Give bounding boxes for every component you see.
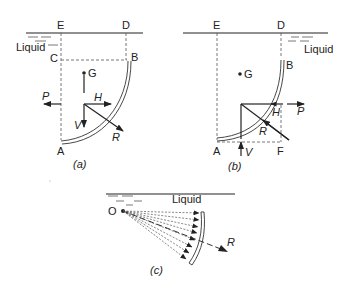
force-r-arrow — [84, 104, 123, 131]
pressure-rays — [123, 211, 199, 259]
force-p-label: P — [42, 90, 50, 102]
point-a-label: A — [57, 145, 65, 157]
point-f-label: F — [277, 145, 284, 157]
surface-wave-marks — [288, 37, 313, 41]
panel-c-caption: (c) — [150, 264, 163, 276]
force-r-label: R — [112, 131, 120, 143]
force-v-label: V — [245, 146, 254, 158]
resultant-r-line — [123, 211, 226, 251]
liquid-label: Liquid — [172, 193, 201, 205]
panel-a: Liquid E D C B G P H V R A (a) — [16, 19, 143, 170]
panel-b: Liquid E D B G H P R V A F (b) — [183, 19, 333, 172]
force-h-label: H — [272, 106, 280, 118]
point-c-label: C — [50, 52, 58, 64]
curved-surface-hydrostatic-force-figure: Liquid E D C B G P H V R A (a) — [0, 0, 357, 288]
point-b-label: B — [286, 59, 293, 71]
stray-mark — [49, 180, 50, 181]
panel-a-caption: (a) — [73, 158, 87, 170]
centroid-g-dot — [82, 71, 86, 75]
force-h-label: H — [94, 91, 102, 103]
center-o-label: O — [108, 205, 117, 217]
point-a-label: A — [213, 145, 221, 157]
panel-c: Liquid O R (c) — [106, 193, 235, 276]
liquid-label: Liquid — [304, 43, 333, 55]
surface-wave-marks — [108, 196, 142, 205]
liquid-label: Liquid — [16, 41, 45, 53]
force-p-label: P — [297, 105, 305, 117]
point-b-label: B — [131, 51, 138, 63]
point-e-label: E — [57, 19, 64, 31]
force-v-label: V — [74, 119, 83, 131]
panel-b-caption: (b) — [228, 160, 242, 172]
centroid-g-dot — [238, 72, 242, 76]
centroid-g-label: G — [244, 68, 253, 80]
force-r-label: R — [259, 125, 267, 137]
centroid-g-label: G — [88, 67, 97, 79]
resultant-r-label: R — [227, 236, 235, 248]
point-e-label: E — [213, 19, 220, 31]
point-d-label: D — [277, 19, 285, 31]
point-d-label: D — [122, 19, 130, 31]
